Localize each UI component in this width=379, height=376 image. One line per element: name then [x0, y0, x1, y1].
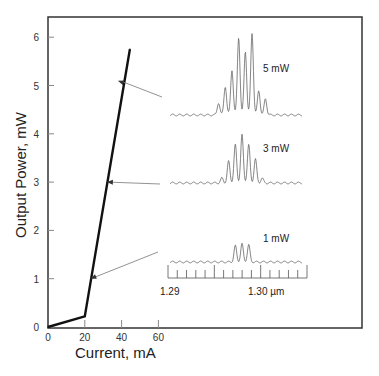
x-tick-label: 20: [79, 332, 91, 343]
spectrum-inset: 5 mW: [118, 34, 302, 116]
y-tick-label: 1: [33, 274, 39, 285]
y-tick-label: 2: [33, 225, 39, 236]
arrow-line: [122, 81, 162, 97]
x-axis-title: Current, mA: [75, 344, 156, 361]
li-curve-point: [47, 326, 49, 328]
spectrum-trace: [170, 243, 302, 263]
spectrum-trace: [170, 34, 302, 116]
spectrum-trace: [170, 134, 302, 184]
li-curve-point: [129, 48, 131, 50]
y-axis-title: Output Power, mW: [12, 111, 29, 238]
x-tick-label: 40: [116, 332, 128, 343]
y-tick-label: 4: [33, 129, 39, 140]
y-tick-label: 3: [33, 177, 39, 188]
scale-label-end: 1.30 µm: [248, 286, 284, 297]
scale-label-start: 1.29: [160, 286, 180, 297]
wavelength-scale: 1.291.30 µm: [160, 265, 307, 297]
y-tick-label: 6: [33, 32, 39, 43]
plot-frame: [48, 17, 362, 328]
li-curve-point: [84, 316, 86, 318]
power-label: 5 mW: [263, 63, 290, 74]
x-tick-label: 0: [45, 332, 51, 343]
power-label: 3 mW: [263, 143, 290, 154]
power-label: 1 mW: [263, 233, 290, 244]
y-tick-label: 5: [33, 81, 39, 92]
li-curve-line: [48, 49, 130, 327]
x-tick-label: 60: [153, 332, 165, 343]
chart-svg: 01234560204060 5 mW3 mW1 mW1.291.30 µm C…: [0, 0, 379, 376]
spectrum-inset: 3 mW: [107, 134, 302, 185]
arrow-line: [111, 182, 160, 184]
arrow-line: [94, 252, 158, 277]
y-tick-label: 0: [33, 322, 39, 333]
